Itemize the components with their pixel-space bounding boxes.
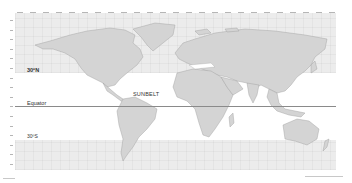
continents bbox=[15, 13, 336, 170]
north-america bbox=[35, 28, 143, 87]
equator-line bbox=[15, 106, 336, 107]
new-zealand bbox=[323, 139, 329, 151]
madagascar bbox=[229, 113, 234, 127]
scale-text bbox=[3, 178, 15, 179]
australia bbox=[283, 119, 319, 145]
equator-label: Equator bbox=[27, 100, 46, 106]
latitude-label-30n: 30ºN bbox=[27, 67, 39, 73]
greenland bbox=[133, 23, 175, 51]
credit-text bbox=[305, 176, 343, 177]
latitude-label-30s: 30ºS bbox=[27, 133, 38, 139]
world-map: 30ºN Equator SUNBELT 30ºS bbox=[15, 13, 336, 170]
southeast-asia bbox=[267, 89, 305, 117]
india bbox=[247, 83, 259, 103]
sunbelt-label: SUNBELT bbox=[133, 91, 159, 97]
latitude-ticks bbox=[10, 20, 14, 165]
